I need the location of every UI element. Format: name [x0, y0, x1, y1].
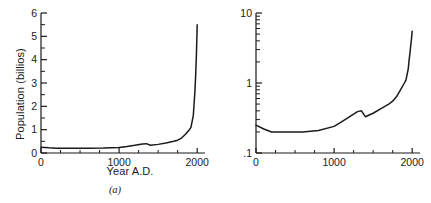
panel-a-x-axis-label: Year A.D. [60, 165, 200, 177]
panel-b-tick-labels: 010002000.1110 [240, 7, 424, 169]
panel-a-caption: (a) [85, 184, 145, 195]
panel-a-tick-labels: 0100020000123456 [31, 7, 209, 169]
panel-b: 010002000.1110 Population (billios) Year… [215, 0, 430, 203]
panel-a-y-axis-label: Population (billios) [14, 48, 26, 140]
panel-b-data-curve [256, 31, 412, 132]
x-tick-label: 2000 [401, 156, 425, 168]
panel-a-data-curve [41, 25, 197, 149]
panel-b-plot: 010002000.1110 [215, 0, 431, 203]
x-tick-label: 1000 [322, 156, 346, 168]
y-tick-label: 1 [31, 123, 37, 135]
y-tick-label: 2 [31, 100, 37, 112]
y-tick-label: 4 [31, 53, 37, 65]
y-tick-label: 5 [31, 30, 37, 42]
panel-a: 0100020000123456 Population (billios) Ye… [0, 0, 215, 203]
panel-a-axes [41, 13, 205, 153]
x-tick-label: 0 [38, 156, 44, 168]
y-tick-label: 10 [240, 7, 252, 19]
y-tick-label: 3 [31, 77, 37, 89]
y-tick-label: 0 [31, 147, 37, 159]
y-tick-label: 1 [246, 77, 252, 89]
population-figure: 0100020000123456 Population (billios) Ye… [0, 0, 431, 203]
x-tick-label: 0 [253, 156, 259, 168]
panel-a-ticks [41, 13, 197, 153]
y-tick-label: 6 [31, 7, 37, 19]
y-tick-label: .1 [243, 147, 252, 159]
